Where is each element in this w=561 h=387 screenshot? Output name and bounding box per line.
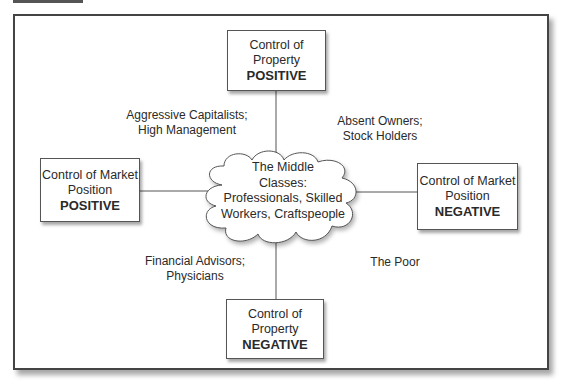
box-line: Position [68, 183, 112, 198]
box-line: Property [251, 322, 298, 337]
box-line: Control of Market [420, 174, 516, 189]
middle-classes-label: The Middle Classes: Professionals, Skill… [207, 160, 359, 222]
label-line: Financial Advisors; [130, 254, 260, 269]
quadrant-bottom-left-label: Financial Advisors; Physicians [130, 254, 260, 284]
box-emphasis: NEGATIVE [435, 204, 501, 219]
box-line: Control of [248, 307, 302, 322]
box-emphasis: NEGATIVE [242, 337, 308, 352]
quadrant-top-right-label: Absent Owners; Stock Holders [320, 114, 440, 144]
box-emphasis: POSITIVE [247, 68, 307, 83]
box-line: Property [253, 53, 300, 68]
box-line: Control of Market [42, 168, 138, 183]
cloud-line: Classes: [207, 176, 359, 192]
label-line: Physicians [130, 269, 260, 284]
market-negative-box: Control of Market Position NEGATIVE [417, 163, 518, 230]
cloud-line: Workers, Craftspeople [207, 207, 359, 223]
quadrant-top-left-label: Aggressive Capitalists; High Management [112, 108, 262, 138]
property-positive-box: Control of Property POSITIVE [227, 30, 326, 91]
quadrant-bottom-right-label: The Poor [355, 255, 435, 270]
label-line: The Poor [355, 255, 435, 270]
label-line: High Management [112, 123, 262, 138]
box-emphasis: POSITIVE [60, 198, 120, 213]
label-line: Aggressive Capitalists; [112, 108, 262, 123]
cloud-line: The Middle [207, 160, 359, 176]
label-line: Stock Holders [320, 129, 440, 144]
cloud-line: Professionals, Skilled [207, 191, 359, 207]
box-line: Position [445, 189, 489, 204]
market-positive-box: Control of Market Position POSITIVE [40, 158, 140, 222]
property-negative-box: Control of Property NEGATIVE [226, 299, 324, 359]
label-line: Absent Owners; [320, 114, 440, 129]
box-line: Control of [249, 38, 303, 53]
